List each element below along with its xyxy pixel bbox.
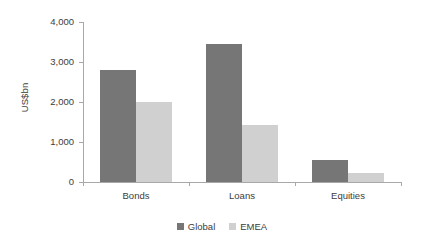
x-tick-mark: [401, 182, 402, 186]
y-axis-tick-label: 4,000: [28, 17, 74, 27]
legend-swatch-icon: [229, 223, 236, 230]
bar-chart: US$bn 01,0002,0003,0004,000 BondsLoansEq…: [0, 0, 444, 247]
y-axis-tick-label: 1,000: [28, 137, 74, 147]
x-axis-category-labels: BondsLoansEquities: [83, 0, 401, 247]
x-axis-category-label: Equities: [331, 190, 365, 201]
x-axis-category-label: Bonds: [123, 190, 150, 201]
legend-label: Global: [188, 222, 215, 232]
y-axis-tick-labels: 01,0002,0003,0004,000: [28, 0, 74, 247]
x-axis-category-label: Loans: [229, 190, 255, 201]
legend-label: EMEA: [240, 222, 267, 232]
y-axis-tick-label: 2,000: [28, 97, 74, 107]
legend-item-emea[interactable]: EMEA: [229, 222, 267, 232]
y-axis-tick-label: 3,000: [28, 57, 74, 67]
legend-item-global[interactable]: Global: [177, 222, 215, 232]
chart-legend: GlobalEMEA: [0, 222, 444, 232]
legend-swatch-icon: [177, 223, 184, 230]
y-axis-tick-label: 0: [28, 177, 74, 187]
